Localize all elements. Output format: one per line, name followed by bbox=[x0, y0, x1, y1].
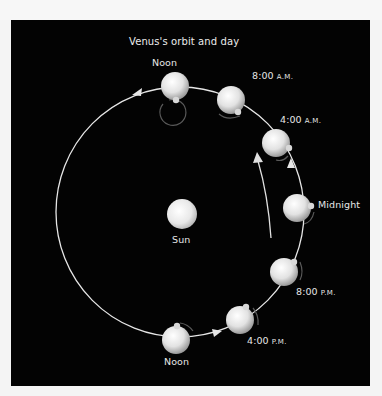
label-4pm: 4:00 P.M. bbox=[247, 335, 287, 346]
label-time: Noon bbox=[152, 57, 177, 68]
label-suffix: A.M. bbox=[277, 73, 293, 81]
venus-noon-bottom-icon bbox=[162, 323, 193, 354]
label-suffix: P.M. bbox=[321, 289, 336, 297]
sun-icon bbox=[167, 199, 197, 229]
label-suffix: A.M. bbox=[305, 117, 321, 125]
venus-4pm-icon bbox=[226, 304, 258, 334]
venus-8pm-icon bbox=[270, 258, 302, 286]
venus-4am-icon bbox=[262, 129, 292, 161]
label-noon-top: Noon bbox=[152, 57, 177, 68]
label-midnight: Midnight bbox=[318, 199, 360, 210]
label-suffix: P.M. bbox=[272, 338, 287, 346]
label-noon-bottom: Noon bbox=[164, 356, 189, 367]
inner-direction-arrow bbox=[258, 161, 271, 238]
label-sun: Sun bbox=[172, 234, 190, 245]
inner-arrowhead-icon bbox=[253, 152, 263, 163]
label-time: 8:00 bbox=[252, 70, 274, 81]
label-time: 4:00 bbox=[247, 335, 269, 346]
venus-noon-top-icon bbox=[160, 72, 189, 125]
venus-8am-icon bbox=[217, 86, 245, 118]
label-8am: 8:00 A.M. bbox=[252, 70, 293, 81]
label-time: 4:00 bbox=[280, 114, 302, 125]
diagram-title: Venus's orbit and day bbox=[129, 36, 239, 47]
label-4am: 4:00 A.M. bbox=[280, 114, 321, 125]
label-8pm: 8:00 P.M. bbox=[296, 286, 336, 297]
orbit-diagram bbox=[0, 0, 382, 396]
venus-midnight-icon bbox=[283, 194, 314, 224]
orbit-arrow-top-left-icon bbox=[132, 88, 142, 96]
label-time: 8:00 bbox=[296, 286, 318, 297]
